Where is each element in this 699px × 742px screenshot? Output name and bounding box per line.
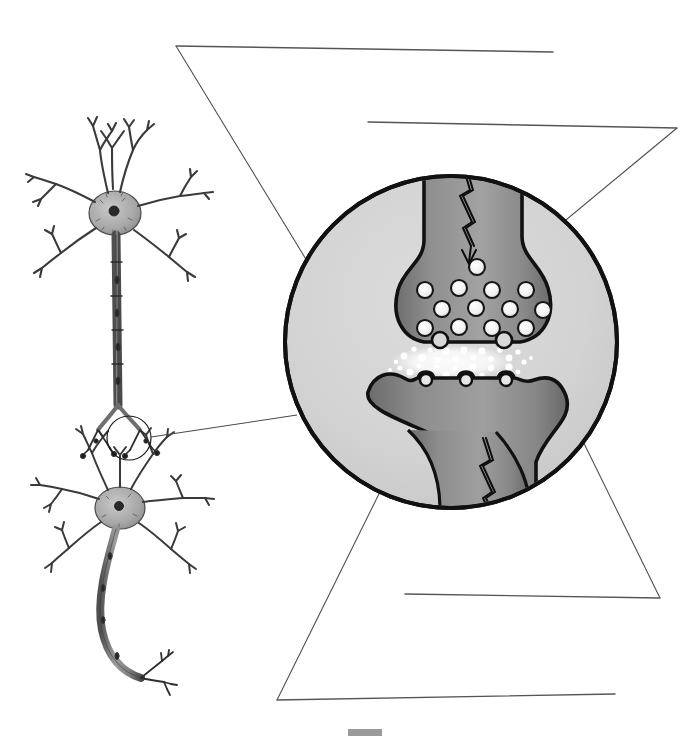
receptor-site [460, 374, 472, 386]
synaptic-vesicle [434, 301, 450, 317]
synapse-diagram-figure: Synapse and Neuron Structure Diagram Unl… [0, 0, 699, 742]
scale-bar [348, 729, 382, 736]
nucleus [109, 206, 119, 216]
receptor-site [420, 374, 432, 386]
synaptic-vesicle [417, 320, 433, 336]
synaptic-vesicle [468, 300, 484, 316]
vesicle-release-site [496, 332, 512, 348]
synaptic-vesicle [518, 320, 534, 336]
synaptic-vesicle [502, 301, 518, 317]
synaptic-vesicle [451, 319, 467, 335]
synaptic-vesicle [484, 282, 500, 298]
diagram-canvas [0, 0, 699, 742]
receptor-site [500, 374, 512, 386]
nucleus [115, 502, 124, 511]
vesicle-release-site [432, 332, 448, 348]
synaptic-vesicle [417, 282, 433, 298]
synaptic-vesicle [535, 302, 551, 318]
synaptic-vesicle [518, 282, 534, 298]
synaptic-vesicle [451, 280, 467, 296]
